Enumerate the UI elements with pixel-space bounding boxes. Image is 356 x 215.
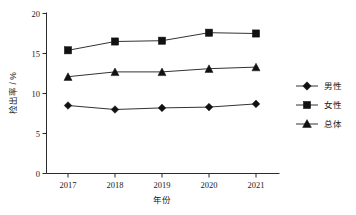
square-marker	[303, 101, 310, 108]
series-1	[64, 100, 260, 113]
axis-lines	[47, 13, 280, 174]
square-marker	[205, 29, 212, 36]
x-tick-label-2019: 2019	[154, 180, 171, 190]
square-marker	[158, 37, 165, 44]
y-tick-label-10: 10	[32, 89, 41, 99]
legend-label-female: 女性	[324, 100, 342, 110]
square-marker	[111, 38, 118, 45]
y-tick-label-5: 5	[36, 129, 40, 139]
diamond-marker	[303, 82, 311, 90]
legend-item-total[interactable]: 总体	[296, 119, 342, 129]
square-marker	[252, 30, 259, 37]
y-axis-title: 检出率 / %	[8, 72, 18, 114]
diamond-marker	[158, 104, 166, 112]
x-axis-title: 年份	[153, 195, 171, 205]
y-tick-label-20: 20	[32, 9, 41, 19]
x-tick-label-2017: 2017	[60, 180, 77, 190]
series-3	[64, 63, 260, 80]
series-2	[64, 29, 259, 54]
legend-label-male: 男性	[324, 81, 342, 91]
diamond-marker	[205, 103, 213, 111]
y-tick-label-15: 15	[32, 49, 41, 59]
diamond-marker	[64, 102, 72, 110]
x-tick-label-2021: 2021	[248, 180, 265, 190]
legend-item-female[interactable]: 女性	[296, 100, 342, 110]
square-marker	[64, 47, 71, 54]
legend: 男性 女性 总体	[296, 81, 342, 129]
line-chart-figure: 0 5 10 15 20 2017 2018 2019 2020 2021 年份…	[0, 0, 356, 215]
diamond-marker	[111, 106, 119, 114]
x-tick-label-2018: 2018	[107, 180, 124, 190]
legend-label-total: 总体	[324, 119, 342, 129]
y-tick-label-0: 0	[36, 169, 40, 179]
x-tick-label-2020: 2020	[201, 180, 218, 190]
chart-canvas: 0 5 10 15 20 2017 2018 2019 2020 2021 年份…	[0, 0, 356, 215]
x-tick-labels: 2017 2018 2019 2020 2021	[60, 180, 265, 190]
diamond-marker	[252, 100, 260, 108]
data-series-layer	[64, 29, 260, 113]
y-tick-labels: 0 5 10 15 20	[32, 9, 41, 179]
legend-item-male[interactable]: 男性	[296, 81, 342, 91]
